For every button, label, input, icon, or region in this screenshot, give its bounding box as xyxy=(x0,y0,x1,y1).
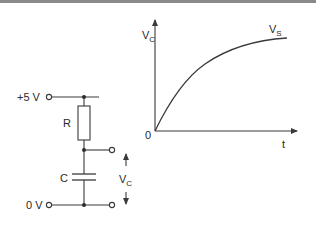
charging-curve xyxy=(155,38,287,131)
output-terminal-bottom xyxy=(109,202,114,207)
output-terminal-top xyxy=(109,147,114,152)
y-axis-label: VC xyxy=(142,29,155,44)
vc-label: VC xyxy=(119,173,132,188)
rc-circuit-diagram: +5 V 0 V R C VC VC VS 0 t xyxy=(0,0,318,227)
ground-node xyxy=(82,203,86,207)
ground-label: 0 V xyxy=(26,199,43,211)
asymptote-label: VS xyxy=(269,23,282,38)
capacitor-label: C xyxy=(60,172,68,184)
resistor-label: R xyxy=(63,117,71,129)
supply-terminal xyxy=(46,94,51,99)
circuit xyxy=(46,94,126,207)
supply-label: +5 V xyxy=(17,91,41,103)
ground-terminal xyxy=(46,202,51,207)
x-axis-label: t xyxy=(282,138,285,150)
origin-label: 0 xyxy=(145,129,151,141)
resistor xyxy=(78,106,90,140)
